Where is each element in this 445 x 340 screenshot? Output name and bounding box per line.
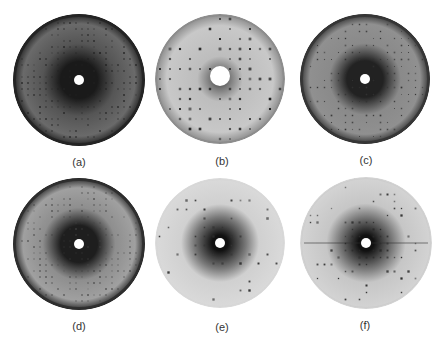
beamstop-shadow — [215, 238, 225, 248]
diffraction-pattern-d — [13, 178, 145, 310]
panel-label-f: (f) — [345, 319, 385, 331]
panel-label-b: (b) — [202, 155, 242, 167]
diffraction-pattern-f — [300, 177, 432, 309]
diffraction-pattern-b — [155, 14, 285, 144]
beamstop-shadow — [361, 238, 371, 248]
diffraction-pattern-e — [155, 178, 285, 308]
beamstop-shadow — [74, 239, 84, 249]
panel-label-c: (c) — [346, 154, 386, 166]
panel-label-e: (e) — [202, 321, 242, 333]
panel-label-d: (d) — [59, 320, 99, 332]
beamstop-shadow — [74, 75, 84, 85]
panel-label-a: (a) — [59, 156, 99, 168]
diffraction-pattern-a — [13, 14, 145, 146]
beamstop-shadow — [210, 66, 230, 86]
beamstop-shadow — [360, 74, 370, 84]
diffraction-pattern-c — [300, 14, 430, 144]
